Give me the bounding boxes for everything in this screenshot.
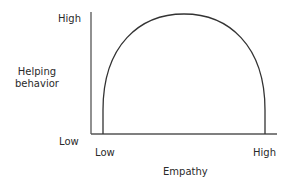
y-tick-low: Low [59,136,79,147]
x-axis-title: Empathy [163,166,208,177]
y-axis-title-line2: behavior [15,78,59,90]
helping-curve [103,14,265,134]
y-axis-title: Helping behavior [15,66,59,90]
y-axis-title-line1: Helping [15,66,59,78]
x-tick-low: Low [95,147,115,158]
y-tick-high: High [58,13,81,24]
x-tick-high: High [253,147,276,158]
chart-canvas [0,0,293,188]
